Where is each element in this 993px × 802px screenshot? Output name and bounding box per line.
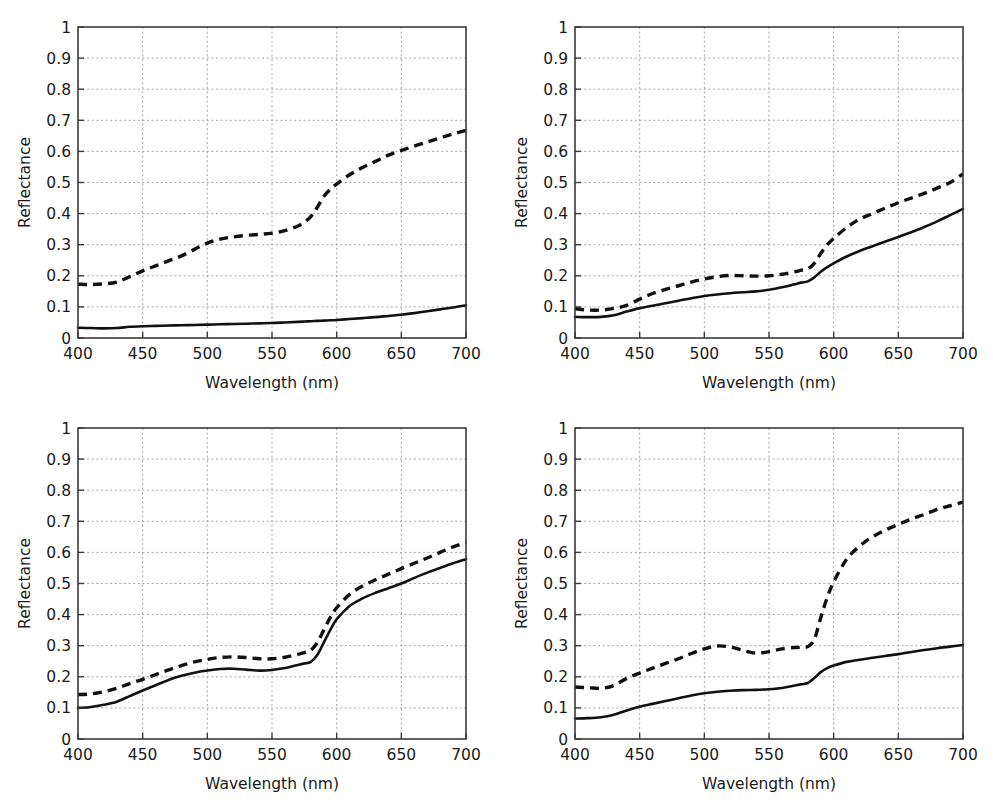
- ytick-label-0.8: 0.8: [543, 482, 568, 500]
- chart-top-right: 00.10.20.30.40.50.60.70.80.9140045050055…: [497, 0, 993, 401]
- xtick-label-450: 450: [128, 746, 158, 764]
- ytick-label-0.6: 0.6: [46, 544, 71, 562]
- ytick-label-0.8: 0.8: [46, 81, 71, 99]
- ytick-label-0.1: 0.1: [46, 298, 71, 316]
- xtick-label-400: 400: [63, 746, 93, 764]
- ytick-label-1: 1: [61, 420, 71, 438]
- xtick-label-500: 500: [193, 345, 223, 363]
- ytick-label-0.1: 0.1: [543, 298, 568, 316]
- xtick-label-400: 400: [63, 345, 93, 363]
- ytick-label-0.4: 0.4: [46, 205, 71, 223]
- xtick-label-700: 700: [451, 345, 481, 363]
- y-axis-title: Reflectance: [513, 137, 531, 228]
- y-axis-title: Reflectance: [513, 538, 531, 629]
- xtick-label-450: 450: [625, 746, 655, 764]
- chart-top-left: 00.10.20.30.40.50.60.70.80.9140045050055…: [0, 0, 496, 401]
- chart-bottom-right: 00.10.20.30.40.50.60.70.80.9140045050055…: [497, 401, 993, 802]
- ytick-label-0.5: 0.5: [543, 174, 568, 192]
- ytick-label-0.4: 0.4: [46, 606, 71, 624]
- xtick-label-450: 450: [128, 345, 158, 363]
- ytick-label-0.7: 0.7: [543, 513, 568, 531]
- ytick-label-0.3: 0.3: [543, 637, 568, 655]
- xtick-label-400: 400: [560, 345, 590, 363]
- xtick-label-650: 650: [387, 345, 417, 363]
- ytick-label-0.2: 0.2: [543, 668, 568, 686]
- ytick-label-0.2: 0.2: [46, 267, 71, 285]
- xtick-label-550: 550: [754, 746, 784, 764]
- ytick-label-0.9: 0.9: [543, 451, 568, 469]
- xtick-label-550: 550: [257, 746, 287, 764]
- xtick-label-650: 650: [884, 345, 914, 363]
- xtick-label-450: 450: [625, 345, 655, 363]
- ytick-label-0.5: 0.5: [46, 174, 71, 192]
- xtick-label-650: 650: [884, 746, 914, 764]
- xtick-label-550: 550: [257, 345, 287, 363]
- xtick-label-700: 700: [451, 746, 481, 764]
- ytick-label-0.4: 0.4: [543, 205, 568, 223]
- xtick-label-550: 550: [754, 345, 784, 363]
- x-axis-title: Wavelength (nm): [205, 775, 339, 793]
- y-axis-title: Reflectance: [16, 538, 34, 629]
- ytick-label-0.6: 0.6: [543, 143, 568, 161]
- ytick-label-1: 1: [61, 19, 71, 37]
- ytick-label-0.9: 0.9: [46, 50, 71, 68]
- xtick-label-500: 500: [193, 746, 223, 764]
- ytick-label-0.2: 0.2: [46, 668, 71, 686]
- xtick-label-600: 600: [819, 746, 849, 764]
- xtick-label-400: 400: [560, 746, 590, 764]
- ytick-label-1: 1: [558, 19, 568, 37]
- xtick-label-600: 600: [322, 746, 352, 764]
- ytick-label-0.3: 0.3: [46, 637, 71, 655]
- x-axis-title: Wavelength (nm): [702, 374, 836, 392]
- xtick-label-600: 600: [322, 345, 352, 363]
- ytick-label-0.8: 0.8: [543, 81, 568, 99]
- ytick-label-0.7: 0.7: [46, 112, 71, 130]
- xtick-label-700: 700: [948, 746, 978, 764]
- ytick-label-0.9: 0.9: [46, 451, 71, 469]
- panel-bottom-right: 00.10.20.30.40.50.60.70.80.9140045050055…: [497, 401, 993, 802]
- ytick-label-0.6: 0.6: [46, 143, 71, 161]
- ytick-label-0.5: 0.5: [543, 575, 568, 593]
- xtick-label-500: 500: [690, 345, 720, 363]
- reflectance-figure: 00.10.20.30.40.50.60.70.80.9140045050055…: [0, 0, 993, 802]
- panel-bottom-left: 00.10.20.30.40.50.60.70.80.9140045050055…: [0, 401, 496, 802]
- ytick-label-0.9: 0.9: [543, 50, 568, 68]
- x-axis-title: Wavelength (nm): [702, 775, 836, 793]
- ytick-label-0.2: 0.2: [543, 267, 568, 285]
- chart-bottom-left: 00.10.20.30.40.50.60.70.80.9140045050055…: [0, 401, 496, 802]
- xtick-label-700: 700: [948, 345, 978, 363]
- ytick-label-0.6: 0.6: [543, 544, 568, 562]
- ytick-label-0.7: 0.7: [46, 513, 71, 531]
- ytick-label-0.4: 0.4: [543, 606, 568, 624]
- ytick-label-0.3: 0.3: [46, 236, 71, 254]
- ytick-label-0.1: 0.1: [543, 699, 568, 717]
- xtick-label-600: 600: [819, 345, 849, 363]
- panel-top-right: 00.10.20.30.40.50.60.70.80.9140045050055…: [497, 0, 993, 401]
- ytick-label-0.5: 0.5: [46, 575, 71, 593]
- panel-top-left: 00.10.20.30.40.50.60.70.80.9140045050055…: [0, 0, 496, 401]
- ytick-label-1: 1: [558, 420, 568, 438]
- ytick-label-0.7: 0.7: [543, 112, 568, 130]
- xtick-label-500: 500: [690, 746, 720, 764]
- xtick-label-650: 650: [387, 746, 417, 764]
- ytick-label-0.1: 0.1: [46, 699, 71, 717]
- ytick-label-0.8: 0.8: [46, 482, 71, 500]
- ytick-label-0.3: 0.3: [543, 236, 568, 254]
- x-axis-title: Wavelength (nm): [205, 374, 339, 392]
- y-axis-title: Reflectance: [16, 137, 34, 228]
